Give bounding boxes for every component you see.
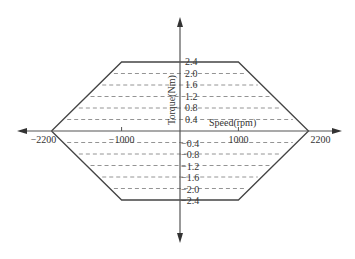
y-tick-label: −2.4 — [181, 195, 199, 206]
y-tick-label: −1.2 — [181, 161, 199, 172]
y-tick-label: 1.2 — [185, 91, 198, 102]
y-tick-label: −0.8 — [181, 149, 199, 160]
x-axis-right-arrow-icon — [332, 128, 342, 134]
y-axis-label: Torque(Nm) — [166, 75, 178, 125]
y-tick-label: 1.6 — [185, 79, 198, 90]
x-tick-label: −1000 — [109, 134, 135, 145]
torque-speed-chart: −2200−100010002200 2.42.01.61.20.80.4−0.… — [0, 0, 355, 259]
x-tick-label: 1000 — [228, 134, 248, 145]
axes — [17, 17, 342, 243]
x-axis-label: Speed(rpm) — [209, 117, 256, 129]
y-tick-label: −2.0 — [181, 184, 199, 195]
chart-svg: −2200−100010002200 2.42.01.61.20.80.4−0.… — [0, 0, 355, 259]
y-tick-label: 0.8 — [185, 102, 198, 113]
y-tick-label: 2.0 — [185, 68, 198, 79]
y-tick-label: −0.4 — [181, 138, 199, 149]
x-tick-label: 2200 — [311, 134, 331, 145]
x-axis-left-arrow-icon — [17, 128, 27, 134]
x-tick-label: −2200 — [31, 134, 57, 145]
y-axis-down-arrow-icon — [177, 233, 183, 243]
y-tick-label: −1.6 — [181, 172, 199, 183]
y-axis-up-arrow-icon — [177, 17, 183, 27]
y-tick-label: 2.4 — [185, 56, 198, 67]
y-tick-label: 0.4 — [185, 114, 198, 125]
